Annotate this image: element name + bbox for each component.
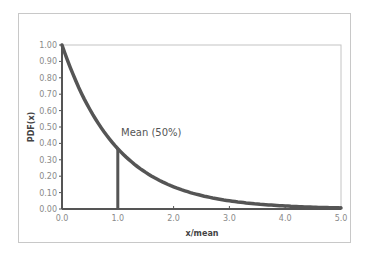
y-ticks: 0.000.100.200.300.400.500.600.700.800.90… [39,41,62,214]
y-tick-label: 0.00 [39,205,57,214]
y-tick-label: 0.70 [39,90,57,99]
plot-area [62,45,341,209]
y-tick-label: 1.00 [39,41,57,50]
x-tick-label: 5.0 [335,214,348,223]
pdf-curve [62,45,341,208]
mean-annotation: Mean (50%) [121,127,182,138]
x-tick-label: 2.0 [167,214,180,223]
y-tick-label: 0.50 [39,123,57,132]
y-tick-label: 0.10 [39,189,57,198]
x-axis-title: x/mean [186,229,219,238]
y-tick-label: 0.80 [39,74,57,83]
x-tick-label: 4.0 [279,214,292,223]
y-tick-label: 0.20 [39,172,57,181]
x-tick-label: 3.0 [223,214,236,223]
y-tick-label: 0.90 [39,57,57,66]
y-axis-title: PDF(x) [27,112,36,142]
y-tick-label: 0.60 [39,107,57,116]
x-tick-label: 1.0 [111,214,124,223]
y-tick-label: 0.40 [39,139,57,148]
x-tick-label: 0.0 [56,214,69,223]
chart-svg: 0.000.100.200.300.400.500.600.700.800.90… [0,0,366,256]
y-tick-label: 0.30 [39,156,57,165]
